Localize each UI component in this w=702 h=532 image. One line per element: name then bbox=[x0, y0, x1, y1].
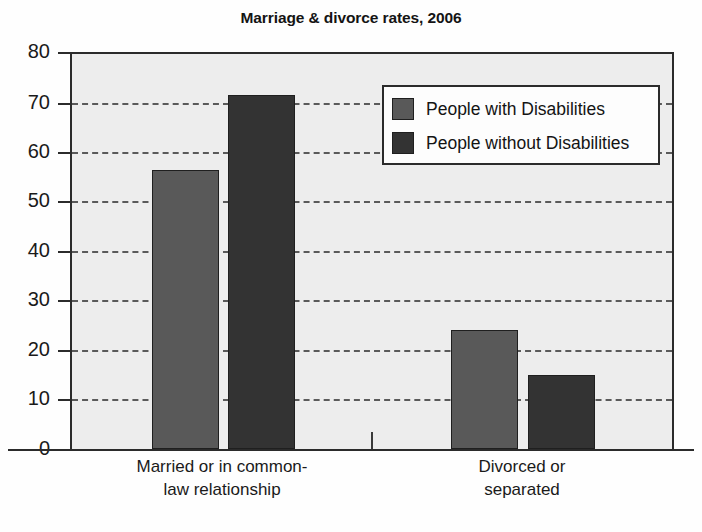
ytick-mark-60 bbox=[58, 152, 72, 154]
xtick-label-married-line1: Married or in common- bbox=[72, 455, 372, 478]
xtick-label-divorced-line1: Divorced or bbox=[372, 455, 672, 478]
legend-swatch-icon-with-disabilities bbox=[392, 98, 414, 120]
bar-married-with-disabilities bbox=[152, 170, 219, 449]
x-axis-line bbox=[8, 449, 694, 451]
ytick-label-60: 60 bbox=[4, 140, 50, 163]
legend-item-without-disabilities: People without Disabilities bbox=[392, 128, 629, 158]
plot-right-border bbox=[672, 52, 674, 451]
ytick-mark-40 bbox=[58, 251, 72, 253]
category-divider-tick bbox=[371, 432, 373, 449]
ytick-label-10: 10 bbox=[4, 387, 50, 410]
xtick-label-divorced: Divorced or separated bbox=[372, 455, 672, 501]
ytick-mark-80 bbox=[58, 52, 72, 54]
ytick-mark-20 bbox=[58, 350, 72, 352]
ytick-label-30: 30 bbox=[4, 288, 50, 311]
xtick-label-married-line2: law relationship bbox=[72, 478, 372, 501]
bar-divorced-with-disabilities bbox=[451, 330, 518, 449]
ytick-mark-70 bbox=[58, 103, 72, 105]
ytick-label-70: 70 bbox=[4, 91, 50, 114]
legend-label-with-disabilities: People with Disabilities bbox=[426, 99, 605, 120]
ytick-label-50: 50 bbox=[4, 189, 50, 212]
ytick-mark-50 bbox=[58, 201, 72, 203]
ytick-mark-30 bbox=[58, 300, 72, 302]
legend-item-with-disabilities: People with Disabilities bbox=[392, 94, 605, 124]
bar-married-without-disabilities bbox=[228, 95, 295, 449]
xtick-label-married: Married or in common- law relationship bbox=[72, 455, 372, 501]
xtick-label-divorced-line2: separated bbox=[372, 478, 672, 501]
ytick-mark-10 bbox=[58, 399, 72, 401]
legend: People with Disabilities People without … bbox=[382, 85, 660, 165]
legend-label-without-disabilities: People without Disabilities bbox=[426, 133, 629, 154]
bar-chart: Marriage & divorce rates, 2006 80 70 60 … bbox=[0, 0, 702, 532]
bar-divorced-without-disabilities bbox=[528, 375, 595, 449]
chart-title: Marriage & divorce rates, 2006 bbox=[0, 9, 702, 27]
ytick-label-40: 40 bbox=[4, 239, 50, 262]
ytick-label-20: 20 bbox=[4, 338, 50, 361]
legend-swatch-icon-without-disabilities bbox=[392, 132, 414, 154]
ytick-label-80: 80 bbox=[4, 40, 50, 63]
